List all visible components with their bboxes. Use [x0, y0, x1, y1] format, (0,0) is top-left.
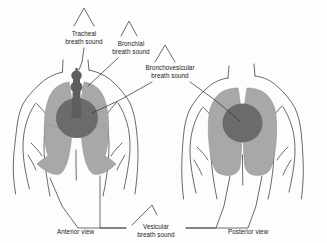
label-vesicular-line1: Vesicular	[126, 223, 186, 231]
label-vesicular-line2: breath sound	[126, 231, 186, 239]
breath-sounds-diagram: Tracheal breath sound Bronchial breath s…	[0, 0, 327, 243]
label-anterior-view: Anterior view	[57, 228, 94, 235]
label-bronchovesicular-line1: Bronchovesicular	[131, 64, 209, 72]
label-bronchial-breath-sound: Bronchial breath sound	[99, 40, 163, 55]
label-tracheal-line1: Tracheal	[52, 30, 116, 38]
label-bronchial-line1: Bronchial	[99, 40, 163, 48]
label-bronchovesicular-line2: breath sound	[131, 72, 209, 80]
posterior-bronchovesicular-zone	[223, 104, 263, 143]
label-bronchovesicular-breath-sound: Bronchovesicular breath sound	[131, 64, 209, 79]
anterior-trachea	[71, 68, 83, 118]
label-vesicular-breath-sound: Vesicular breath sound	[126, 223, 186, 238]
label-posterior-view: Posterior view	[228, 228, 268, 235]
diagram-canvas	[0, 0, 327, 243]
label-bronchial-line2: breath sound	[99, 48, 163, 56]
